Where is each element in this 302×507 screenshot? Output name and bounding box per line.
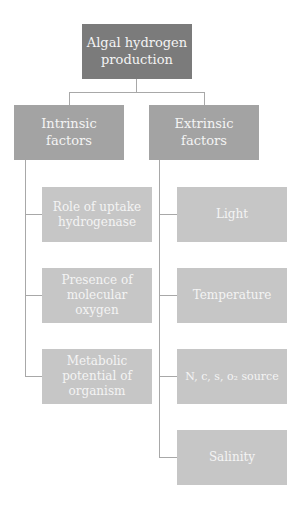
connector-to-intrinsic: [69, 92, 70, 105]
connector-to-extrinsic: [204, 92, 205, 105]
connector-extrinsic-leaf-4: [159, 457, 177, 458]
leaf-label: Role of uptake hydrogenase: [46, 200, 148, 230]
connector-intrinsic-spine: [25, 160, 26, 377]
connector-intrinsic-leaf-3: [25, 376, 42, 377]
leaf-temperature: Temperature: [177, 268, 287, 323]
root-node-label: Algal hydrogen production: [82, 35, 192, 68]
leaf-metabolic-potential: Metabolic potential of organism: [42, 349, 152, 404]
leaf-label: N, c, s, o₂ source: [185, 370, 279, 384]
connector-root-stem: [136, 79, 137, 92]
extrinsic-factors-node: Extrinsic factors: [149, 105, 259, 160]
leaf-label: Salinity: [209, 450, 255, 465]
leaf-label: Metabolic potential of organism: [58, 354, 136, 399]
extrinsic-factors-label: Extrinsic factors: [169, 116, 239, 149]
root-node: Algal hydrogen production: [82, 24, 192, 79]
connector-root-bar: [69, 92, 205, 93]
leaf-label: Temperature: [193, 288, 272, 303]
connector-intrinsic-leaf-1: [25, 214, 42, 215]
leaf-light: Light: [177, 187, 287, 242]
leaf-uptake-hydrogenase: Role of uptake hydrogenase: [42, 187, 152, 242]
leaf-label: Light: [216, 207, 248, 222]
connector-extrinsic-leaf-1: [159, 214, 177, 215]
intrinsic-factors-label: Intrinsic factors: [34, 116, 104, 149]
leaf-ncso2-source: N, c, s, o₂ source: [177, 349, 287, 404]
leaf-salinity: Salinity: [177, 430, 287, 485]
connector-extrinsic-leaf-3: [159, 376, 177, 377]
intrinsic-factors-node: Intrinsic factors: [14, 105, 124, 160]
leaf-label: Presence of molecular oxygen: [61, 273, 133, 318]
connector-extrinsic-leaf-2: [159, 295, 177, 296]
connector-intrinsic-leaf-2: [25, 295, 42, 296]
leaf-molecular-oxygen: Presence of molecular oxygen: [42, 268, 152, 323]
connector-extrinsic-spine: [159, 160, 160, 458]
